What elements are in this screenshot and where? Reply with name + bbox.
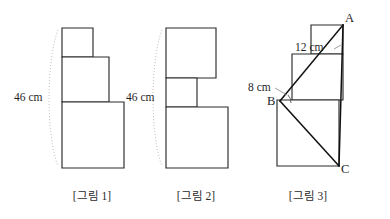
fig2-rect-middle	[166, 78, 197, 107]
fig1-rect-middle	[62, 57, 109, 102]
figure-3-caption: [그림 3]	[258, 191, 358, 203]
fig3-leader-8cm	[275, 88, 287, 95]
fig1-rect-bottom	[62, 102, 124, 168]
fig3-vertex-c-label: C	[341, 163, 349, 176]
fig1-measure-label: 46 cm	[14, 92, 42, 104]
fig2-measure-label: 46 cm	[126, 92, 154, 104]
fig3-label-8cm: 8 cm	[248, 82, 271, 94]
fig3-vertex-a-label: A	[345, 12, 354, 25]
figure-stage: 46 cm 46 cm 12 cm 8 cm A B C [그림 1] [그림 …	[0, 0, 390, 219]
fig2-rect-bottom	[166, 107, 228, 168]
fig3-vertex-b-label: B	[267, 95, 275, 108]
figure-2-caption: [그림 2]	[146, 191, 246, 203]
fig2-rect-top	[166, 28, 216, 78]
figure-2-shape	[166, 28, 228, 168]
geometry-canvas	[0, 0, 390, 219]
fig3-label-12cm: 12 cm	[295, 42, 323, 54]
figure-1-shape	[62, 28, 124, 168]
fig1-measure-brace	[49, 30, 58, 166]
figure-1-caption: [그림 1]	[42, 191, 142, 203]
fig1-rect-top	[62, 28, 93, 57]
